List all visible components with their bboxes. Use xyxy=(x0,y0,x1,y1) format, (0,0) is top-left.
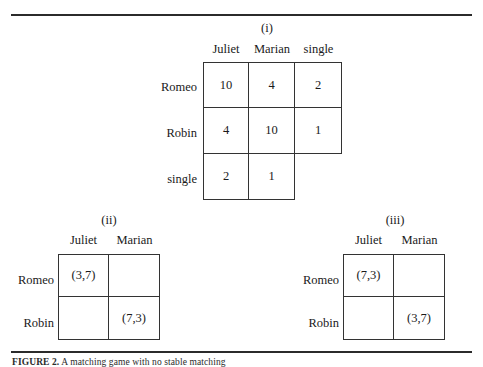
panel-ii-row-label-robin: Robin xyxy=(0,317,54,330)
panel-i-cell-value: 1 xyxy=(315,124,321,137)
panel-i-cell-single-marian[interactable]: 1 xyxy=(249,154,295,200)
panel-i-row-label-single: single xyxy=(123,173,197,186)
panel-iii-row-label-robin: Robin xyxy=(273,317,339,330)
panel-ii-column-header-juliet: Juliet xyxy=(58,234,109,247)
panel-ii-cell-value: (3,7) xyxy=(72,269,96,282)
figure-caption: FIGURE 2. A matching game with no stable… xyxy=(12,357,226,367)
panel-i-cell-romeo-marian[interactable]: 4 xyxy=(249,62,295,108)
figure-caption-text: A matching game with no stable matching xyxy=(61,357,225,367)
panel-iii-row-label-romeo: Romeo xyxy=(273,274,339,287)
panel-ii-title: (ii) xyxy=(69,214,149,227)
panel-i-row-label-robin: Robin xyxy=(123,127,197,140)
panel-iii-cell-robin-marian[interactable]: (3,7) xyxy=(394,297,445,340)
panel-i-cell-value: 2 xyxy=(223,170,229,183)
panel-ii-cell-romeo-marian[interactable] xyxy=(109,254,160,297)
panel-i-column-header-marian: Marian xyxy=(249,43,295,56)
panel-i-cell-robin-single[interactable]: 1 xyxy=(295,108,342,154)
panel-iii-column-header-juliet: Juliet xyxy=(343,234,394,247)
panel-i-row-label-romeo: Romeo xyxy=(123,81,197,94)
panel-iii-cell-value: (3,7) xyxy=(407,312,431,325)
panel-i-cell-value: 1 xyxy=(268,170,274,183)
panel-iii-column-header-marian: Marian xyxy=(394,234,445,247)
panel-iii-title: (iii) xyxy=(355,214,435,227)
panel-ii-cell-value: (7,3) xyxy=(122,312,146,325)
panel-iii-cell-value: (7,3) xyxy=(357,269,381,282)
figure-caption-label: FIGURE 2. xyxy=(12,357,59,367)
panel-i-title: (i) xyxy=(227,22,307,35)
panel-iii-cell-robin-juliet[interactable] xyxy=(343,297,394,340)
figure-bottom-rule xyxy=(11,351,472,353)
panel-i-cell-robin-marian[interactable]: 10 xyxy=(249,108,295,154)
figure-top-rule xyxy=(11,14,472,16)
panel-i-cell-value: 4 xyxy=(268,79,274,92)
panel-ii-row-label-romeo: Romeo xyxy=(0,274,54,287)
panel-i-cell-romeo-single[interactable]: 2 xyxy=(295,62,342,108)
panel-i-cell-value: 2 xyxy=(315,79,321,92)
panel-i-cell-robin-juliet[interactable]: 4 xyxy=(203,108,249,154)
panel-ii-cell-robin-marian[interactable]: (7,3) xyxy=(109,297,160,340)
panel-i-column-header-single: single xyxy=(295,43,342,56)
panel-iii-cell-romeo-marian[interactable] xyxy=(394,254,445,297)
panel-i-cell-single-juliet[interactable]: 2 xyxy=(203,154,249,200)
panel-ii-column-header-marian: Marian xyxy=(109,234,160,247)
panel-iii-cell-romeo-juliet[interactable]: (7,3) xyxy=(343,254,394,297)
panel-i-cell-value: 10 xyxy=(220,79,233,92)
panel-i-cell-value: 4 xyxy=(223,124,229,137)
panel-ii-cell-romeo-juliet[interactable]: (3,7) xyxy=(58,254,109,297)
panel-i-column-header-juliet: Juliet xyxy=(203,43,249,56)
panel-ii-cell-robin-juliet[interactable] xyxy=(58,297,109,340)
panel-i-cell-value: 10 xyxy=(265,124,278,137)
panel-i-cell-romeo-juliet[interactable]: 10 xyxy=(203,62,249,108)
